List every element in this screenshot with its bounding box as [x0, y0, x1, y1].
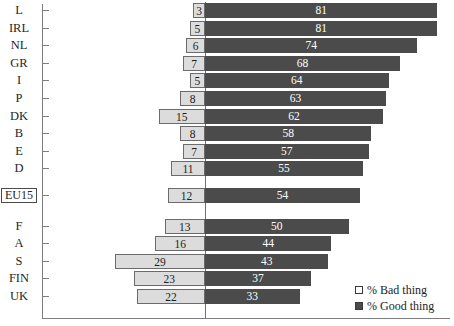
bar-track: 674 — [0, 38, 454, 53]
bar-track: 2943 — [0, 254, 454, 269]
chart-row: DK1562 — [0, 108, 454, 125]
bar-track: 1254 — [0, 188, 454, 203]
legend-label-good: % Good thing — [367, 298, 434, 314]
bar-track: 757 — [0, 144, 454, 159]
bar-good-e: 57 — [205, 144, 369, 159]
bar-bad-dk: 15 — [159, 109, 206, 124]
chart-row: P863 — [0, 90, 454, 107]
bar-track: 381 — [0, 3, 454, 18]
bar-good-eu15: 54 — [205, 188, 360, 203]
legend-swatch-good-icon — [355, 302, 363, 310]
chart-legend: % Bad thing % Good thing — [355, 282, 434, 314]
chart-row: A1644 — [0, 235, 454, 252]
diverging-bar-chart: L381IRL581NL674GR768I564P863DK1562B858E7… — [0, 0, 454, 326]
bar-track: 768 — [0, 56, 454, 71]
bar-bad-a: 16 — [155, 236, 205, 251]
bar-bad-gr: 7 — [183, 56, 205, 71]
chart-row: E757 — [0, 143, 454, 160]
baseline-axis — [42, 318, 450, 319]
legend-swatch-bad-icon — [355, 286, 363, 294]
bar-track: 1350 — [0, 219, 454, 234]
chart-row: S2943 — [0, 253, 454, 270]
bar-good-l: 81 — [205, 3, 437, 18]
bar-bad-p: 8 — [180, 91, 205, 106]
bar-track: 1155 — [0, 161, 454, 176]
bar-good-d: 55 — [205, 161, 363, 176]
bar-track: 581 — [0, 21, 454, 36]
bar-track: 1644 — [0, 236, 454, 251]
chart-row: EU151254 — [0, 187, 454, 204]
chart-row: F1350 — [0, 218, 454, 235]
bar-good-irl: 81 — [205, 21, 437, 36]
bar-bad-eu15: 12 — [168, 188, 205, 203]
bar-bad-uk: 22 — [137, 289, 205, 304]
bar-bad-f: 13 — [165, 219, 205, 234]
chart-row: IRL581 — [0, 20, 454, 37]
legend-item-bad: % Bad thing — [355, 282, 434, 298]
bar-good-uk: 33 — [205, 289, 300, 304]
chart-row: I564 — [0, 72, 454, 89]
bar-bad-e: 7 — [183, 144, 205, 159]
bar-good-nl: 74 — [205, 38, 417, 53]
bar-good-fin: 37 — [205, 271, 311, 286]
bar-bad-i: 5 — [190, 73, 206, 88]
chart-row: L381 — [0, 2, 454, 19]
bar-good-dk: 62 — [205, 109, 383, 124]
bar-bad-fin: 23 — [134, 271, 205, 286]
legend-item-good: % Good thing — [355, 298, 434, 314]
bar-bad-irl: 5 — [190, 21, 206, 36]
bar-good-i: 64 — [205, 73, 389, 88]
bar-track: 1562 — [0, 109, 454, 124]
bar-good-a: 44 — [205, 236, 331, 251]
bar-good-gr: 68 — [205, 56, 400, 71]
bar-track: 858 — [0, 126, 454, 141]
bar-track: 863 — [0, 91, 454, 106]
bar-good-f: 50 — [205, 219, 349, 234]
chart-row: GR768 — [0, 55, 454, 72]
bar-bad-s: 29 — [115, 254, 205, 269]
bar-track: 564 — [0, 73, 454, 88]
chart-row: D1155 — [0, 160, 454, 177]
bar-good-s: 43 — [205, 254, 328, 269]
bar-bad-b: 8 — [180, 126, 205, 141]
bar-good-p: 63 — [205, 91, 386, 106]
chart-row: NL674 — [0, 37, 454, 54]
bar-bad-nl: 6 — [186, 38, 205, 53]
chart-row: B858 — [0, 125, 454, 142]
bar-bad-l: 3 — [193, 3, 205, 18]
legend-label-bad: % Bad thing — [367, 282, 427, 298]
bar-bad-d: 11 — [171, 161, 205, 176]
bar-good-b: 58 — [205, 126, 371, 141]
